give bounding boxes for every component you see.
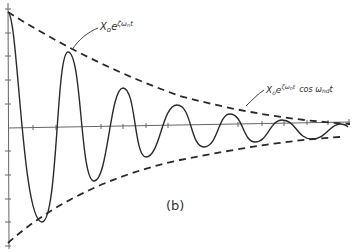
- damped-response-curve: [8, 12, 348, 222]
- envelope-label: Xoeζωnt: [99, 20, 133, 34]
- response-label: Xoeζωntcos ωndt: [265, 83, 334, 96]
- damped-oscillation-figure: Xoeζωnt Xoeζωntcos ωndt (b): [0, 0, 354, 252]
- envelope-leader-line: [72, 28, 98, 50]
- panel-label: (b): [166, 198, 184, 213]
- vertical-axis: [5, 3, 11, 249]
- lower-envelope-curve: [8, 137, 340, 243]
- horizontal-axis: [8, 119, 350, 130]
- response-leader-line: [246, 90, 264, 106]
